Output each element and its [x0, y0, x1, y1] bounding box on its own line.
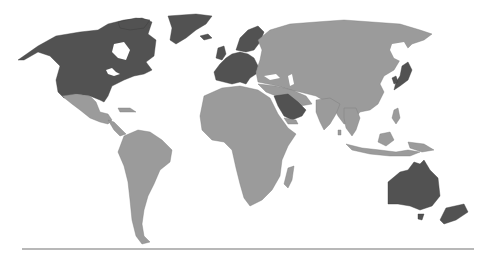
island-philippines	[392, 108, 400, 124]
country-new-zealand	[440, 204, 468, 224]
country-iceland	[200, 34, 212, 40]
country-southeast-asia	[344, 108, 360, 136]
island-cuba	[118, 108, 136, 112]
country-madagascar	[284, 166, 294, 188]
country-uk-ireland	[216, 46, 226, 60]
country-indonesia	[346, 144, 420, 156]
region-europe	[200, 26, 264, 84]
country-australia	[388, 160, 440, 210]
country-south-america	[118, 130, 172, 244]
region-africa-middle-east	[200, 84, 312, 206]
island-borneo	[378, 132, 394, 146]
country-japan	[394, 62, 412, 90]
island-sri-lanka	[338, 130, 341, 135]
island-tasmania	[418, 214, 424, 220]
baseline-divider	[22, 248, 474, 250]
country-central-america	[108, 120, 126, 136]
region-oceania	[388, 160, 468, 224]
region-latin-america	[62, 94, 172, 244]
world-map	[0, 0, 488, 258]
region-north-america-highlighted	[18, 14, 212, 102]
country-canada-usa	[18, 18, 156, 102]
country-india	[316, 98, 340, 130]
